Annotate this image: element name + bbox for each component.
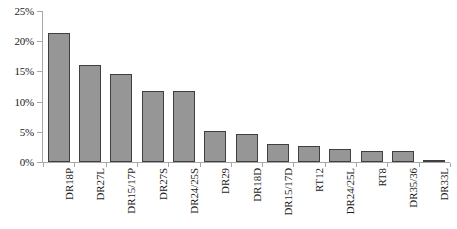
x-axis-tick xyxy=(419,163,420,167)
x-axis-labels: DR18PDR27LDR15/17PDR27SDR24/25SDR29DR18D… xyxy=(0,0,457,229)
x-axis-tick xyxy=(450,163,451,167)
x-axis-category-label: DR24/25L xyxy=(345,168,356,214)
x-axis-tick xyxy=(387,163,388,167)
x-axis-tick xyxy=(106,163,107,167)
x-axis-category-label: DR27L xyxy=(95,168,106,201)
x-axis-tick xyxy=(168,163,169,167)
x-axis-category-label: DR24/25S xyxy=(189,168,200,214)
x-axis-category-label: DR18P xyxy=(64,168,75,200)
x-axis-category-label: DR29 xyxy=(220,168,231,194)
x-axis-category-label: DR15/17P xyxy=(126,168,137,214)
x-axis-category-label: DR15/17D xyxy=(283,168,294,215)
x-axis-tick xyxy=(262,163,263,167)
x-axis-tick xyxy=(43,163,44,167)
x-axis-category-label: DR18D xyxy=(252,168,263,202)
x-axis-tick xyxy=(137,163,138,167)
x-axis-tick xyxy=(74,163,75,167)
x-axis-category-label: DR33L xyxy=(439,168,450,201)
x-axis-category-label: RT8 xyxy=(377,168,388,187)
x-axis-tick xyxy=(293,163,294,167)
bar-chart: 0%5%10%15%20%25% DR18PDR27LDR15/17PDR27S… xyxy=(0,0,457,229)
x-axis-tick xyxy=(325,163,326,167)
x-axis-category-label: RT12 xyxy=(314,168,325,192)
x-axis-tick xyxy=(231,163,232,167)
x-axis-tick xyxy=(200,163,201,167)
x-axis-tick xyxy=(356,163,357,167)
x-axis-category-label: DR35/36 xyxy=(408,168,419,208)
x-axis-category-label: DR27S xyxy=(158,168,169,200)
